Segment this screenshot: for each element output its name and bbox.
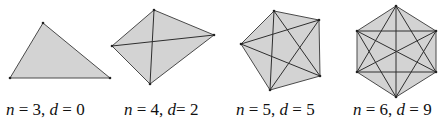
vertex-dot (273, 10, 276, 13)
d-variable: d (50, 100, 59, 119)
panel-quadrilateral (111, 9, 216, 86)
vertex-dot (356, 71, 359, 74)
vertex-dot (395, 96, 398, 99)
d-variable: d (168, 100, 177, 119)
n-variable: n (6, 100, 15, 119)
vertex-dot (240, 43, 243, 46)
vertex-dot (9, 77, 12, 80)
d-value: = 9 (405, 100, 432, 119)
d-variable: d (280, 100, 289, 119)
n-variable: n (236, 100, 245, 119)
label-pentagon: n = 5, d = 5 (236, 99, 315, 121)
panel-hexagon (356, 5, 438, 99)
vertex-dot (318, 19, 321, 22)
n-value: = 5, (245, 100, 280, 119)
n-variable: n (124, 100, 133, 119)
polygon-shape (10, 23, 110, 78)
label-quadrilateral: n = 4, d= 2 (124, 99, 198, 121)
vertex-dot (213, 34, 216, 37)
label-triangle: n = 3, d = 0 (6, 99, 85, 121)
n-variable: n (353, 100, 362, 119)
vertex-dot (269, 89, 272, 92)
vertex-dot (395, 5, 398, 8)
vertex-dot (356, 30, 359, 33)
n-value: = 4, (133, 100, 168, 119)
vertex-dot (111, 45, 114, 48)
vertex-dot (435, 30, 438, 33)
d-value: = 2 (176, 100, 198, 119)
vertex-dot (149, 83, 152, 86)
n-value: = 6, (362, 100, 397, 119)
vertex-dot (109, 77, 112, 80)
label-hexagon: n = 6, d = 9 (353, 99, 432, 121)
n-value: = 3, (15, 100, 50, 119)
d-value: = 0 (58, 100, 85, 119)
vertex-dot (435, 71, 438, 74)
d-variable: d (397, 100, 406, 119)
panel-pentagon (240, 10, 322, 92)
panel-triangle (9, 22, 112, 80)
d-value: = 5 (288, 100, 315, 119)
vertex-dot (319, 75, 322, 78)
vertex-dot (153, 9, 156, 12)
polygon-shape (112, 10, 214, 84)
vertex-dot (42, 22, 45, 25)
